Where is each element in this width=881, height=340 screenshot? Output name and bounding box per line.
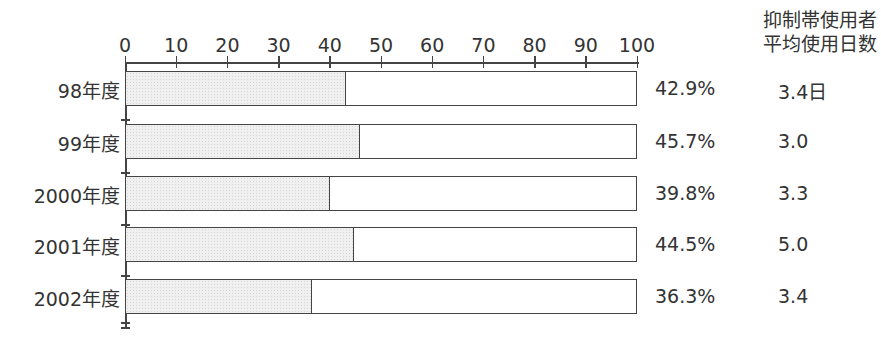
x-tick <box>432 56 434 68</box>
percent-label: 39.8% <box>655 182 715 204</box>
days-column-header: 抑制帯使用者 <box>763 8 877 32</box>
y-tick <box>121 275 130 277</box>
x-tick-label: 40 <box>318 34 342 56</box>
x-tick-label: 90 <box>574 34 598 56</box>
x-tick <box>381 56 383 68</box>
category-label: 2001年度 <box>34 232 120 259</box>
days-value: 3.0 <box>778 130 808 152</box>
bar-fill <box>126 228 354 261</box>
x-axis-line <box>125 62 639 64</box>
y-tick <box>121 322 130 324</box>
x-tick-label: 70 <box>471 34 495 56</box>
x-tick-label: 20 <box>215 34 239 56</box>
x-tick <box>637 56 639 68</box>
x-tick-label: 80 <box>523 34 547 56</box>
bar-fill <box>126 280 312 313</box>
days-value: 3.4 <box>778 285 808 307</box>
category-label: 2000年度 <box>34 181 120 208</box>
bar-track <box>126 279 637 314</box>
bar-fill <box>126 72 346 105</box>
x-tick-label: 60 <box>420 34 444 56</box>
x-tick-label: 10 <box>164 34 188 56</box>
x-tick <box>534 56 536 68</box>
x-tick-label: 0 <box>119 34 131 56</box>
y-tick <box>121 327 130 329</box>
percent-label: 36.3% <box>655 285 715 307</box>
y-tick <box>121 224 130 226</box>
category-label: 99年度 <box>58 129 120 156</box>
x-tick <box>227 56 229 68</box>
percent-label: 45.7% <box>655 130 715 152</box>
bar-fill <box>126 177 330 210</box>
bar-track <box>126 176 637 211</box>
category-label: 2002年度 <box>34 284 120 311</box>
x-tick-label: 50 <box>369 34 393 56</box>
days-column-header: 平均使用日数 <box>763 32 877 56</box>
bar-track <box>126 124 637 159</box>
days-value: 3.4日 <box>778 77 827 104</box>
x-tick <box>176 56 178 68</box>
x-tick-label: 30 <box>267 34 291 56</box>
x-tick <box>329 56 331 68</box>
category-label: 98年度 <box>58 76 120 103</box>
percent-label: 42.9% <box>655 77 715 99</box>
x-tick <box>278 56 280 68</box>
percent-label: 44.5% <box>655 233 715 255</box>
days-value: 5.0 <box>778 233 808 255</box>
bar-fill <box>126 125 360 158</box>
x-tick <box>125 56 127 68</box>
bar-track <box>126 227 637 262</box>
y-tick <box>121 172 130 174</box>
x-tick <box>585 56 587 68</box>
y-tick <box>121 119 130 121</box>
bar-track <box>126 71 637 106</box>
days-value: 3.3 <box>778 182 808 204</box>
x-tick <box>483 56 485 68</box>
x-tick-label: 100 <box>619 34 655 56</box>
